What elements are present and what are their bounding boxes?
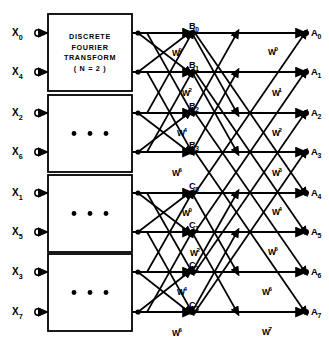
svg-text:7: 7: [19, 312, 23, 321]
stage3-twiddle-w1-1: W1: [272, 86, 282, 98]
input-terminal-x6: [35, 149, 48, 155]
svg-text:0: 0: [317, 33, 321, 40]
stage3-twiddle-w3-3: W3: [272, 166, 282, 178]
svg-text:4: 4: [183, 285, 187, 292]
svg-text:2: 2: [195, 265, 199, 272]
dft-box-3: [48, 175, 132, 252]
dft-box-text-line: TRANSFORM: [64, 53, 116, 62]
dft-box-text-line: DISCRETE: [69, 32, 111, 41]
svg-text:2: 2: [188, 86, 192, 93]
stage3-twiddle-w4-4: W4: [272, 205, 282, 217]
output-node-a5: [303, 229, 309, 235]
output-node-a0: [303, 30, 309, 36]
dft-box-2: [48, 95, 132, 172]
svg-text:3: 3: [195, 145, 199, 152]
dft-box-1: DISCRETEFOURIERTRANSFORM( N = 2 ): [48, 14, 132, 91]
input-label-x5: X5: [12, 226, 23, 240]
output-node-a2: [303, 110, 309, 116]
input-terminal-x4: [35, 69, 48, 75]
output-node-a3: [303, 149, 309, 155]
input-label-x4: X4: [12, 66, 23, 80]
stage2-twiddle-w2-5: W2: [190, 246, 200, 258]
input-node-circle: [35, 149, 41, 155]
input-node-circle: [35, 269, 41, 275]
input-label-x0: X0: [12, 27, 23, 41]
input-label-x3: X3: [12, 266, 23, 280]
stage2-twiddle-w0-0: W0: [172, 46, 182, 58]
output-node-a7: [303, 309, 309, 315]
svg-text:2: 2: [195, 106, 199, 113]
dft-box-text-line: FOURIER: [71, 43, 108, 52]
fft-flow-graph-figure: DISCRETEFOURIERTRANSFORM( N = 2 ) X0X4X2…: [0, 0, 329, 342]
svg-text:6: 6: [178, 166, 182, 173]
input-node-circle: [35, 69, 41, 75]
ellipsis-dot: [88, 290, 93, 295]
svg-text:3: 3: [19, 272, 23, 281]
svg-text:1: 1: [195, 65, 199, 72]
input-terminal-x7: [35, 309, 48, 315]
output-label-a3: A3: [311, 146, 321, 159]
input-terminal-x2: [35, 110, 48, 116]
svg-text:1: 1: [278, 86, 282, 93]
input-terminal-x1: [35, 190, 48, 196]
output-node-a4: [303, 190, 309, 196]
stage3-twiddle-w6-6: W6: [262, 285, 272, 297]
output-label-a1: A1: [311, 66, 321, 79]
stage3-twiddle-w2-2: W2: [272, 126, 282, 138]
output-label-a0: A0: [311, 27, 321, 40]
svg-text:1: 1: [195, 225, 199, 232]
svg-text:0: 0: [188, 206, 192, 213]
input-terminal-x0: [35, 30, 48, 36]
input-node-circle: [35, 190, 41, 196]
ellipsis-dot: [72, 131, 77, 136]
stage3-twiddle-w5-5: W5: [268, 245, 278, 257]
input-label-x1: X1: [12, 187, 23, 201]
ellipsis-dot: [104, 131, 109, 136]
dft-box-4: [48, 254, 132, 331]
ellipsis-dot: [88, 211, 93, 216]
svg-text:5: 5: [317, 232, 321, 239]
stage2-twiddle-w2-1: W2: [182, 86, 192, 98]
svg-text:1: 1: [19, 193, 23, 202]
svg-text:0: 0: [274, 45, 278, 52]
input-terminal-x5: [35, 229, 48, 235]
input-label-x2: X2: [12, 107, 23, 121]
stage2-twiddle-w6-3: W6: [172, 166, 182, 178]
svg-text:6: 6: [268, 285, 272, 292]
fft-diagram-canvas: DISCRETEFOURIERTRANSFORM( N = 2 ) X0X4X2…: [0, 0, 329, 342]
input-label-x7: X7: [12, 306, 23, 320]
stage2-twiddle-w6-7: W6: [172, 326, 182, 338]
svg-text:0: 0: [178, 46, 182, 53]
stage2-butterfly-layer: [147, 33, 306, 312]
svg-text:2: 2: [19, 113, 23, 122]
stage3-butterfly-layer: [195, 33, 305, 312]
stage2-twiddle-w4-2: W4: [177, 126, 187, 138]
ellipsis-dot: [88, 131, 93, 136]
input-node-circle: [35, 309, 41, 315]
svg-text:3: 3: [278, 166, 282, 173]
dft-block-layer: DISCRETEFOURIERTRANSFORM( N = 2 ): [48, 14, 132, 331]
ellipsis-dot: [72, 211, 77, 216]
dft-box-text-line: ( N = 2 ): [74, 64, 106, 73]
svg-text:1: 1: [317, 72, 321, 79]
input-node-circle: [35, 110, 41, 116]
svg-text:6: 6: [19, 152, 23, 161]
svg-text:7: 7: [268, 325, 272, 332]
stage2-twiddle-w4-6: W4: [177, 285, 187, 297]
svg-text:3: 3: [317, 152, 321, 159]
input-label-x6: X6: [12, 146, 23, 160]
svg-text:7: 7: [317, 312, 321, 319]
input-wire-layer: [35, 30, 48, 315]
output-label-a7: A7: [311, 306, 321, 319]
stage2-twiddle-w0-4: W0: [182, 206, 192, 218]
svg-text:4: 4: [278, 205, 282, 212]
svg-text:2: 2: [196, 246, 200, 253]
input-node-circle: [35, 229, 41, 235]
ellipsis-dot: [104, 211, 109, 216]
svg-text:4: 4: [317, 193, 321, 200]
svg-text:2: 2: [278, 126, 282, 133]
ellipsis-dot: [104, 290, 109, 295]
svg-text:2: 2: [317, 113, 321, 120]
output-node-a6: [303, 269, 309, 275]
ellipsis-dot: [72, 290, 77, 295]
